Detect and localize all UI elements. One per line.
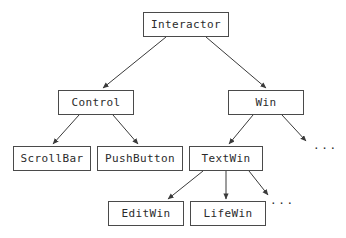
node-label: TextWin xyxy=(201,153,250,164)
edge-control-to-scrollbar xyxy=(53,115,79,144)
node-scrollbar[interactable]: ScrollBar xyxy=(13,146,91,171)
node-win[interactable]: Win xyxy=(228,90,304,115)
node-control[interactable]: Control xyxy=(58,90,134,115)
node-label: Interactor xyxy=(151,19,221,30)
node-pushbutton[interactable]: PushButton xyxy=(97,146,183,171)
node-lifewin[interactable]: LifeWin xyxy=(190,201,266,226)
edge-interactor-to-win xyxy=(206,37,266,88)
ellipsis-win-more: ... xyxy=(313,140,338,151)
node-label: PushButton xyxy=(105,153,175,164)
node-interactor[interactable]: Interactor xyxy=(143,12,229,37)
edge-group xyxy=(53,37,306,199)
class-hierarchy-diagram: Interactor Control Win ScrollBar PushBut… xyxy=(0,0,346,238)
node-label: EditWin xyxy=(121,208,170,219)
node-label: LifeWin xyxy=(203,208,252,219)
node-textwin[interactable]: TextWin xyxy=(189,146,263,171)
edge-control-to-pushbutton xyxy=(113,115,138,144)
edge-win-to-win-more xyxy=(282,115,306,141)
node-label: Win xyxy=(255,97,276,108)
edge-textwin-to-textwin-more xyxy=(249,171,268,195)
node-editwin[interactable]: EditWin xyxy=(108,201,184,226)
node-label: ScrollBar xyxy=(20,153,83,164)
edge-interactor-to-control xyxy=(103,37,166,88)
ellipsis-textwin-more: ... xyxy=(270,195,295,206)
edge-win-to-textwin xyxy=(229,115,253,144)
node-label: Control xyxy=(71,97,120,108)
edge-textwin-to-editwin xyxy=(168,171,203,199)
